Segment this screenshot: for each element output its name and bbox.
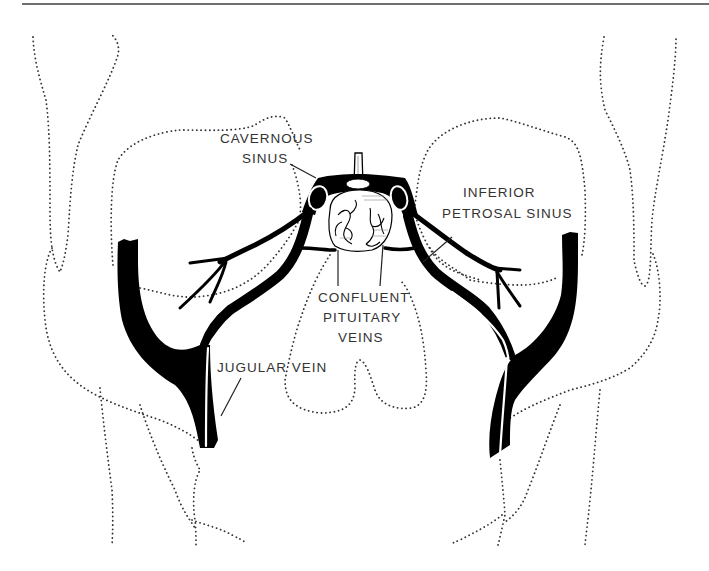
right-neck-line-2 xyxy=(505,405,560,522)
left-temporal-base xyxy=(140,210,304,297)
left-inner-contour xyxy=(292,165,301,215)
left-confluent-branch xyxy=(300,248,335,250)
confluent-veins-leader-right xyxy=(380,245,383,286)
cavernous-sinus-leader xyxy=(290,164,316,178)
right-superior-branch-fork-c xyxy=(497,272,499,308)
left-neck-line-4 xyxy=(192,520,245,542)
label-inferior-petrosal-line1: INFERIOR xyxy=(463,185,536,200)
left-outer-contour xyxy=(33,33,119,272)
label-confluent-line3: VEINS xyxy=(338,330,384,345)
right-neck-line-4 xyxy=(450,515,502,545)
label-jugular-vein: JUGULAR VEIN xyxy=(217,360,327,375)
right-neck-line-3 xyxy=(498,460,505,545)
label-confluent-line2: PITUITARY xyxy=(323,310,401,325)
right-cheek-contour xyxy=(510,254,660,418)
right-superior-branch-fork-b xyxy=(497,272,520,306)
left-neck-line-1 xyxy=(100,388,113,545)
right-superior-branch-fork-a xyxy=(495,268,520,270)
left-neck-line-3 xyxy=(192,448,200,545)
jugular-vein-leader xyxy=(221,378,241,416)
right-confluent-branch xyxy=(385,248,415,250)
labels: CAVERNOUS SINUS INFERIOR PETROSAL SINUS … xyxy=(217,131,573,375)
pituitary-gland xyxy=(329,190,392,251)
label-inferior-petrosal-line2: PETROSAL SINUS xyxy=(442,206,573,221)
right-neck-line-1 xyxy=(585,390,600,545)
pituitary-venous-drainage-diagram: CAVERNOUS SINUS INFERIOR PETROSAL SINUS … xyxy=(0,0,709,571)
label-confluent-line1: CONFLUENT xyxy=(318,290,410,305)
label-cavernous-line1: CAVERNOUS xyxy=(220,131,314,146)
right-outer-contour xyxy=(600,37,676,286)
label-cavernous-line2: SINUS xyxy=(242,151,288,166)
